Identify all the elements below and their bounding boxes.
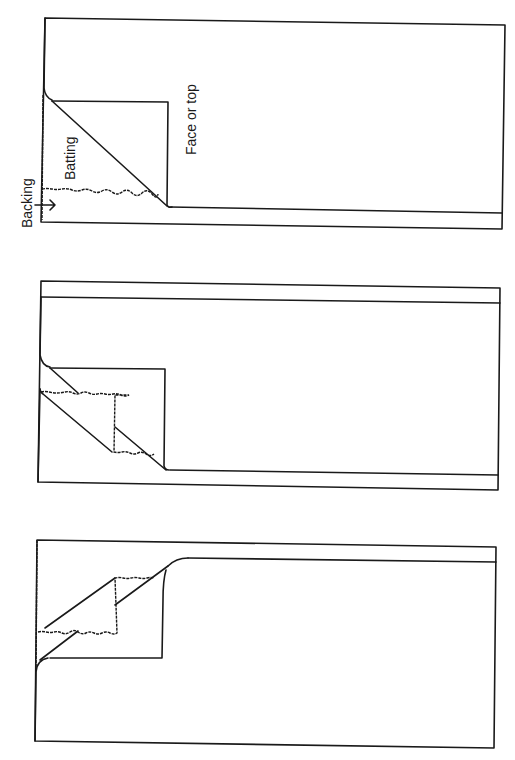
panel-2 [38, 281, 500, 490]
panel-3-face-left-edge [35, 658, 48, 741]
panel-2-top-strip-line [41, 297, 500, 303]
panel-3-outer-border [35, 540, 496, 748]
panel-3-top-strip-line [188, 558, 496, 562]
panel-1: Backing Batting Face or top [19, 18, 505, 229]
label-batting: Batting [62, 136, 78, 180]
panel-1-face-left-edge [44, 18, 52, 100]
panel-2-face-fold-line [50, 368, 166, 470]
panel-2-outer-border [38, 281, 500, 490]
panel-1-backing-left-edge [42, 95, 43, 220]
panel-1-face-bottom-edge [170, 207, 502, 213]
panel-2-face-bottom-edge [170, 470, 498, 475]
panel-1-batting-edge [42, 189, 158, 198]
quilt-layers-diagram: Backing Batting Face or top [0, 0, 515, 760]
panel-1-backing-arrow [35, 200, 55, 210]
panel-2-face-left-edge [40, 297, 50, 367]
panel-2-batting-fold-line [40, 389, 112, 452]
panel-3-batting-flap [38, 578, 154, 635]
panel-1-outer-border [41, 18, 505, 229]
panel-3 [35, 540, 496, 748]
panel-3-face-top-curve [168, 558, 188, 566]
panel-2-backing-left-edge [38, 389, 40, 482]
panel-3-batting-fold-line [45, 578, 115, 628]
label-backing: Backing [19, 178, 35, 228]
panel-3-face-fold-line [40, 566, 168, 660]
label-face-or-top: Face or top [183, 84, 199, 155]
